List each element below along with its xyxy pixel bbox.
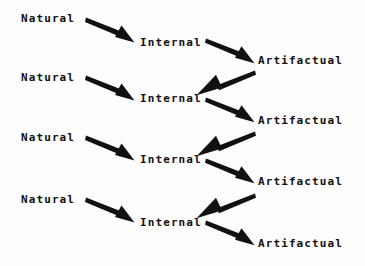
node-artifactual-2: Artifactual bbox=[258, 115, 343, 127]
node-natural-2: Natural bbox=[21, 72, 75, 84]
arrow-natural-3-to-internal-3 bbox=[85, 136, 135, 161]
arrow-internal-1-to-artifactual-1 bbox=[205, 38, 255, 63]
arrow-natural-4-to-internal-4 bbox=[85, 198, 135, 223]
arrow-internal-4-to-artifactual-4 bbox=[205, 220, 255, 245]
node-artifactual-3: Artifactual bbox=[258, 176, 343, 188]
diagram-canvas: Natural Internal Artifactual Natural Int… bbox=[0, 0, 365, 266]
node-artifactual-1: Artifactual bbox=[258, 55, 343, 67]
node-natural-4: Natural bbox=[21, 194, 75, 206]
node-internal-2: Internal bbox=[140, 93, 202, 105]
node-internal-3: Internal bbox=[140, 154, 202, 166]
node-internal-1: Internal bbox=[140, 37, 202, 49]
arrow-group bbox=[85, 18, 256, 246]
arrow-natural-2-to-internal-2 bbox=[85, 76, 135, 101]
arrow-internal-3-to-artifactual-3 bbox=[205, 158, 255, 183]
node-internal-4: Internal bbox=[140, 217, 202, 229]
node-natural-3: Natural bbox=[21, 132, 75, 144]
arrow-internal-2-to-artifactual-2 bbox=[205, 97, 255, 122]
arrow-natural-1-to-internal-1 bbox=[85, 18, 135, 43]
arrow-artifactual-2-to-internal-3 bbox=[197, 131, 257, 156]
node-natural-1: Natural bbox=[21, 13, 75, 25]
arrow-artifactual-3-to-internal-4 bbox=[197, 193, 257, 218]
node-artifactual-4: Artifactual bbox=[258, 238, 343, 250]
arrow-artifactual-1-to-internal-2 bbox=[197, 70, 257, 95]
